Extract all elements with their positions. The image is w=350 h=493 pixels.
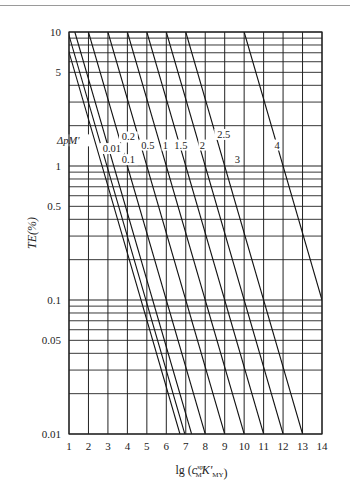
y-tick-label: 10 — [50, 26, 62, 38]
y-tick-label: 0.01 — [42, 428, 61, 440]
y-axis-title: TE(%) — [25, 217, 39, 249]
series-line-dpm-0_1 — [68, 32, 185, 434]
y-tick-label: 5 — [56, 66, 62, 78]
legend-title: ΔpM' — [56, 135, 80, 146]
plot-frame — [69, 32, 322, 434]
y-tick-label: 0.1 — [47, 294, 61, 306]
series-label: 3 — [235, 154, 240, 165]
x-tick-label: 14 — [317, 440, 329, 452]
x-tick-label: 1 — [66, 440, 72, 452]
y-tick-label: 0.5 — [47, 200, 61, 212]
y-tick-label: 0.05 — [42, 334, 62, 346]
x-tick-label: 7 — [183, 440, 189, 452]
series-label: 0.01 — [103, 143, 121, 154]
x-tick-label: 3 — [105, 440, 111, 452]
series-line-dpm-0_01 — [63, 32, 180, 434]
x-axis-title: lg (cspMK'MY) — [176, 463, 228, 480]
x-tick-label: 5 — [144, 440, 150, 452]
x-tick-label: 9 — [222, 440, 228, 452]
series-label: 1 — [163, 140, 168, 151]
series-label: 2.5 — [217, 129, 230, 140]
series-label: 2 — [200, 140, 205, 151]
series-label: 0.2 — [122, 131, 135, 142]
series-line-dpm-0_2 — [75, 32, 192, 434]
x-tick-label: 6 — [164, 440, 170, 452]
y-tick-label: 1 — [56, 160, 62, 172]
x-tick-label: 11 — [258, 440, 269, 452]
x-tick-label: 13 — [297, 440, 309, 452]
x-tick-label: 2 — [86, 440, 92, 452]
series-label: 0.1 — [122, 154, 135, 165]
series-label: 1.5 — [174, 140, 187, 151]
x-tick-label: 10 — [239, 440, 251, 452]
x-tick-label: 12 — [278, 440, 289, 452]
ringbom-titration-error-chart: 123456789101112131410510.50.10.050.010.0… — [0, 0, 350, 493]
x-tick-label: 4 — [125, 440, 131, 452]
series-label: 4 — [275, 140, 281, 151]
series-label: 0.5 — [141, 140, 154, 151]
x-tick-label: 8 — [202, 440, 208, 452]
